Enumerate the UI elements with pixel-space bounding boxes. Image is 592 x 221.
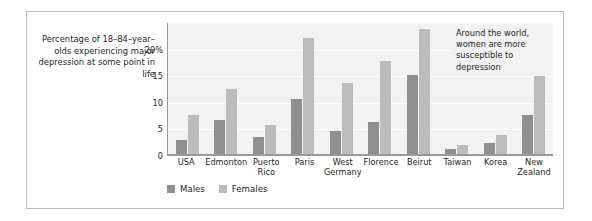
bar-group [399,23,438,155]
x-tick-label: New Zealand [515,158,553,177]
bar-females [188,115,199,155]
bar-females [226,89,237,155]
y-tick-label: 0 [135,151,163,161]
chart-legend: MalesFemales [167,184,267,194]
legend-label: Males [180,184,205,194]
bar-males [291,99,302,155]
x-tick-label: Korea [477,158,515,177]
x-tick-label: Paris [285,158,323,177]
legend-item: Females [219,184,268,194]
bar-females [534,73,545,155]
x-axis-line [168,154,553,155]
bar-group [207,23,246,155]
y-tick-label: 20% [135,45,163,55]
bar-females [419,29,430,155]
legend-swatch-icon [219,185,227,193]
legend-swatch-icon [167,185,175,193]
figure-frame: Percentage of 18–84–year–olds experienci… [26,11,564,209]
bar-males [214,120,225,155]
x-tick-label: Puerto Rico [247,158,285,177]
x-tick-label: Taiwan [438,158,476,177]
x-tick-label: West Germany [324,158,362,177]
x-tick-label: USA [167,158,205,177]
bar-males [253,137,264,155]
chart-annotation: Around the world, women are more suscept… [452,26,552,76]
x-tick-label: Florence [362,158,400,177]
bar-females [380,61,391,155]
y-tick-label: 10 [135,98,163,108]
bar-males [176,140,187,155]
y-tick-label: 15 [135,71,163,81]
bar-females [265,125,276,155]
x-axis-category-labels: USAEdmontonPuerto RicoParisWest GermanyF… [167,158,553,177]
x-tick-label: Beirut [400,158,438,177]
legend-label: Females [232,184,268,194]
bar-group [361,23,400,155]
bar-group [284,23,323,155]
y-tick-label: 5 [135,124,163,134]
bar-males [407,75,418,155]
bar-group [322,23,361,155]
bar-females [303,38,314,155]
x-tick-label: Edmonton [205,158,247,177]
bar-females [342,83,353,155]
y-axis-tick-labels: 05101520% [131,23,163,156]
bar-males [330,131,341,155]
bar-group [245,23,284,155]
legend-item: Males [167,184,205,194]
bar-males [522,115,533,155]
bar-females [496,135,507,155]
bar-group [168,23,207,155]
bar-males [368,122,379,155]
